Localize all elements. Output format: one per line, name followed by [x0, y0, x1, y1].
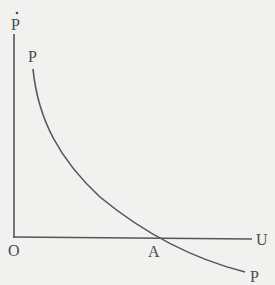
- phillips-curve-chart: P P O A U P: [0, 0, 275, 285]
- curve-start-label: P: [28, 48, 37, 65]
- curve-end-label: P: [250, 268, 259, 285]
- y-axis-label: P: [11, 16, 20, 33]
- origin-label: O: [8, 242, 20, 259]
- phillips-curve: [33, 69, 245, 272]
- dot-accent: [16, 12, 19, 15]
- x-axis-label: U: [256, 231, 268, 248]
- x-axis: [13, 237, 252, 239]
- intersection-label: A: [148, 243, 160, 260]
